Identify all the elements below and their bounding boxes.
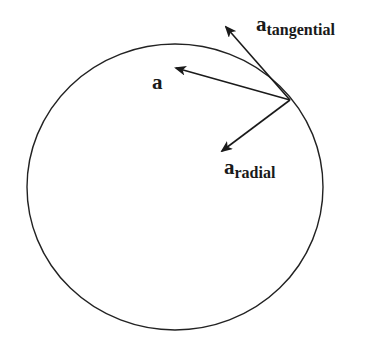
total-acceleration-arrow — [176, 68, 290, 100]
total-acceleration-label: a — [152, 70, 163, 94]
label-subscript: tangential — [267, 21, 336, 39]
label-main: a — [256, 12, 267, 36]
circular-motion-acceleration-diagram: atangential a aradial — [0, 0, 376, 352]
radial-acceleration-label: aradial — [224, 155, 276, 181]
label-main: a — [224, 155, 235, 179]
radial-acceleration-arrow — [222, 100, 290, 151]
label-subscript: radial — [235, 164, 276, 181]
tangential-acceleration-label: atangential — [256, 12, 336, 39]
